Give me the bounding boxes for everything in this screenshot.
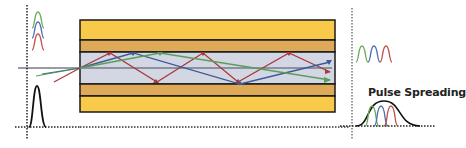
pulse-spreading-label: Pulse Spreading — [368, 86, 466, 99]
spread-pulse-red — [384, 106, 398, 126]
fiber-cross-section — [80, 20, 335, 112]
output-pulse-red — [380, 46, 392, 62]
inner-cladding-top — [80, 40, 335, 52]
output-pulse-green — [356, 46, 368, 62]
input-pulse-black — [29, 86, 46, 127]
input-pulse-green — [32, 12, 44, 28]
output-pulse-blue — [368, 46, 380, 62]
outer-cladding-top — [80, 20, 335, 40]
inner-cladding-bottom — [80, 84, 335, 96]
outer-cladding-bottom — [80, 96, 335, 112]
